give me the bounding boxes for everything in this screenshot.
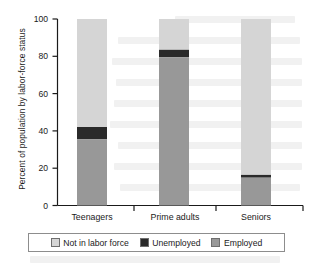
bar-teenagers[interactable] xyxy=(77,19,107,206)
bar-segment-prime-adults-not-in-labor-force[interactable] xyxy=(159,19,189,50)
bar-prime-adults[interactable] xyxy=(159,19,189,206)
bar-segment-seniors-unemployed[interactable] xyxy=(241,175,271,178)
bar-segment-prime-adults-employed[interactable] xyxy=(159,57,189,205)
legend-item-unemployed[interactable]: Unemployed xyxy=(140,238,201,248)
legend-label-unemployed: Unemployed xyxy=(152,238,200,248)
bar-segment-teenagers-not-in-labor-force[interactable] xyxy=(77,19,107,127)
bar-segment-teenagers-unemployed[interactable] xyxy=(77,127,107,139)
legend-swatch-employed-icon xyxy=(211,238,220,247)
legend-label-employed: Employed xyxy=(224,238,262,248)
y-tick-label-20: 20 xyxy=(18,163,48,173)
y-tick-label-60: 60 xyxy=(18,89,48,99)
y-axis-ticks xyxy=(53,19,58,206)
legend-item-employed[interactable]: Employed xyxy=(211,238,262,248)
legend-swatch-not-in-labor-force-icon xyxy=(51,238,60,247)
bar-segment-seniors-not-in-labor-force[interactable] xyxy=(241,19,271,175)
y-tick-label-40: 40 xyxy=(18,126,48,136)
bar-segment-teenagers-employed[interactable] xyxy=(77,139,107,205)
y-tick-label-100: 100 xyxy=(18,14,48,24)
bar-segment-seniors-employed[interactable] xyxy=(241,178,271,206)
y-tick-label-80: 80 xyxy=(18,51,48,61)
bar-segment-prime-adults-unemployed[interactable] xyxy=(159,50,189,58)
labor-force-status-chart: Percent of population by labor-force sta… xyxy=(0,0,316,263)
legend-swatch-unemployed-icon xyxy=(140,238,149,247)
legend-item-not-in-labor-force[interactable]: Not in labor force xyxy=(51,238,129,248)
x-tick-label-prime-adults: Prime adults xyxy=(139,212,211,222)
x-tick-label-teenagers: Teenagers xyxy=(62,212,122,222)
x-axis-ticks xyxy=(134,206,303,212)
bar-seniors[interactable] xyxy=(241,19,271,206)
y-axis-title: Percent of population by labor-force sta… xyxy=(17,9,27,209)
y-tick-label-0: 0 xyxy=(18,201,48,211)
legend-label-not-in-labor-force: Not in labor force xyxy=(63,238,128,248)
chart-legend: Not in labor force Unemployed Employed xyxy=(28,233,285,252)
x-tick-label-seniors: Seniors xyxy=(226,212,286,222)
